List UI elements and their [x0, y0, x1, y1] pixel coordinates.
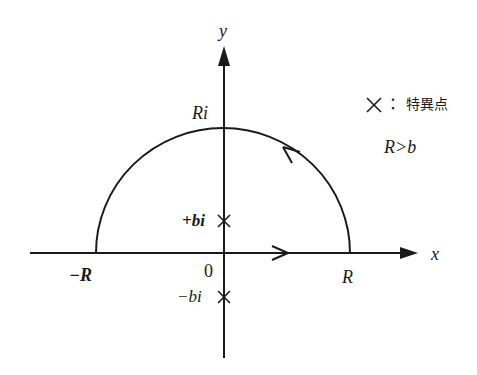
arc-direction-arrow-icon	[283, 147, 300, 163]
top-intercept-label: Ri	[192, 104, 208, 122]
x-axis-arrowhead	[400, 247, 418, 259]
singularity-plus-bi-label: +bi	[182, 212, 205, 229]
condition-label: R>b	[384, 138, 416, 156]
origin-label: 0	[204, 262, 213, 280]
legend-meaning: 特異点	[406, 97, 448, 111]
singularity-minus-bi-label: −bi	[177, 288, 202, 305]
x-axis-label: x	[431, 245, 439, 263]
left-intercept-label: −R	[69, 266, 92, 284]
legend-separator: ：	[389, 96, 405, 112]
y-axis-label: y	[219, 22, 227, 40]
legend-marker-icon	[367, 98, 381, 112]
y-axis-arrowhead	[218, 46, 230, 66]
right-intercept-label: R	[342, 268, 353, 286]
contour-diagram	[0, 0, 477, 375]
